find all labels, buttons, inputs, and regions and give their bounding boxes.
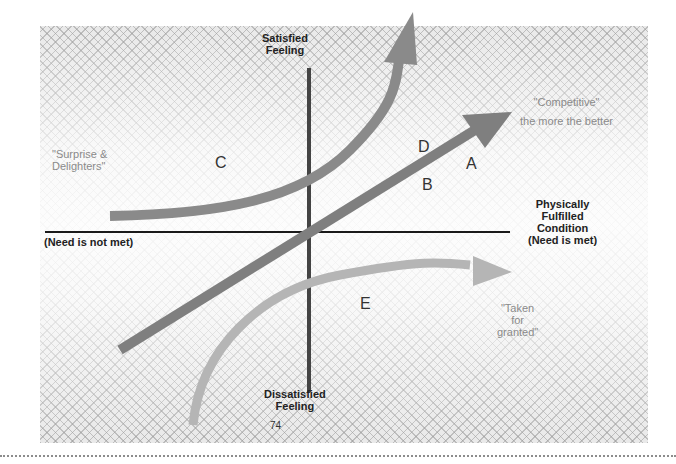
y-top-line-1: Satisfied [262,32,308,44]
y-axis-top-label: Satisfied Feeling [262,32,308,56]
page-number: 74 [270,420,281,431]
taken-for-granted-label: "Taken for granted" [497,302,538,338]
x-right-line-3: Condition [528,222,597,234]
y-axis-bottom-label: Dissatisfied Feeling [264,388,326,412]
x-right-line-4: (Need is met) [528,234,597,246]
granted-line-1: "Taken [497,302,538,314]
y-bottom-line-2: Feeling [264,400,326,412]
performance-line [120,130,475,350]
y-bottom-line-1: Dissatisfied [264,388,326,400]
letter-a: A [466,155,477,173]
delighter-curve [110,55,400,216]
competitive-line-1: "Competitive" [520,96,613,108]
letter-b: B [422,176,433,194]
basic-arrowhead [473,256,512,286]
letter-d: D [418,138,430,156]
delighter-arrowhead [384,12,417,65]
delighters-line-1: "Surprise & [52,148,107,160]
granted-line-2: for [497,314,538,326]
basic-curve [193,263,470,425]
competitive-label: "Competitive" the more the better [520,96,613,127]
x-right-line-2: Fulfilled [528,210,597,222]
delighters-line-2: Delighters" [52,160,107,172]
competitive-line-2: the more the better [520,115,613,127]
y-top-line-2: Feeling [262,44,308,56]
delighters-label: "Surprise & Delighters" [52,148,107,172]
x-right-line-1: Physically [528,198,597,210]
letter-e: E [360,295,371,313]
letter-c: C [215,154,227,172]
x-axis-left-label: (Need is not met) [44,236,133,248]
page-divider [0,455,676,457]
x-axis-right-label: Physically Fulfilled Condition (Need is … [528,198,597,246]
granted-line-3: granted" [497,326,538,338]
